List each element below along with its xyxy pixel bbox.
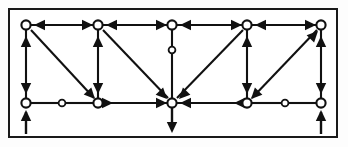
arrowhead-into-b3-left [156,98,167,108]
arrowhead-into-t4-right [255,20,266,30]
edge-diag-t2-b3 [103,30,168,98]
diagonal-edges [31,30,317,98]
arrowhead-down-into-b2 [93,83,103,94]
arrowhead-up-into-t2 [93,36,103,47]
arrowhead-into-t3-left [156,20,167,30]
edge-marker-b4-b5 [282,100,289,107]
arrowhead-down-into-b5 [316,83,326,94]
arrowhead-down-into-b4 [242,83,252,94]
edge-marker-t3-b3 [169,47,176,54]
arrowhead-b2-toward-b3 [102,98,113,108]
edge-marker-b1-b2 [59,100,66,107]
node-b5[interactable] [316,98,325,107]
arrowhead-up-into-t4 [242,36,252,47]
arrowhead-stub-right-in [316,110,326,121]
diagram-stage [0,0,348,147]
arrowhead-stub-left-in [21,110,31,121]
node-b1[interactable] [21,98,30,107]
vertical-arrowheads [21,36,326,94]
vertical-edges [26,30,321,99]
arrowhead-into-b3-right [180,98,191,108]
graph-nodes [21,20,325,107]
arrowhead-up-into-t5 [316,36,326,47]
arrowhead-into-t1 [34,20,45,30]
arrowhead-down-into-b1 [21,83,31,94]
arrowhead-into-t5 [305,20,316,30]
node-b4[interactable] [242,98,251,107]
node-t4[interactable] [242,20,251,29]
graph-canvas [0,0,348,147]
node-t3[interactable] [167,20,176,29]
edge-diag-b4-t5 [252,30,317,98]
arrowhead-into-t4-left [231,20,242,30]
diagonal-arrowheads [84,27,322,102]
arrowhead-stub-center-out [167,122,177,133]
arrowhead-up-into-t1 [21,36,31,47]
edge-diag-t1-b2 [31,30,94,98]
node-t1[interactable] [21,20,30,29]
node-t5[interactable] [316,20,325,29]
edge-diag-t4-b3 [177,30,243,98]
arrowhead-into-t2-right [106,20,117,30]
external-stubs [21,106,326,134]
node-b2[interactable] [93,98,102,107]
arrowhead-into-t3-right [180,20,191,30]
arrowhead-into-t2-left [82,20,93,30]
node-t2[interactable] [93,20,102,29]
node-b3[interactable] [167,98,176,107]
